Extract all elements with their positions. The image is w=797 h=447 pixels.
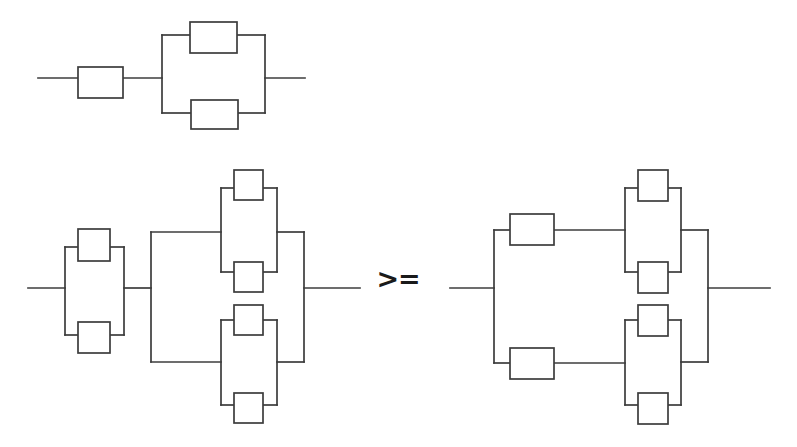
block-r3: [638, 170, 668, 201]
block-l5: [234, 305, 263, 335]
block-r1: [510, 214, 554, 245]
block-l4: [234, 262, 263, 292]
block-r4: [638, 262, 668, 293]
block-r5: [638, 305, 668, 336]
block-l1: [78, 229, 110, 261]
block-r2: [510, 348, 554, 379]
block-r6: [638, 393, 668, 424]
block-l2: [78, 322, 110, 353]
block-t3: [191, 100, 238, 129]
block-t1: [78, 67, 123, 98]
block-t2: [190, 22, 237, 53]
block-l6: [234, 393, 263, 423]
block-l3: [234, 170, 263, 200]
reliability-block-diagram-figure: >=: [0, 0, 797, 447]
relation-symbol-greater-equal: >=: [376, 263, 419, 294]
